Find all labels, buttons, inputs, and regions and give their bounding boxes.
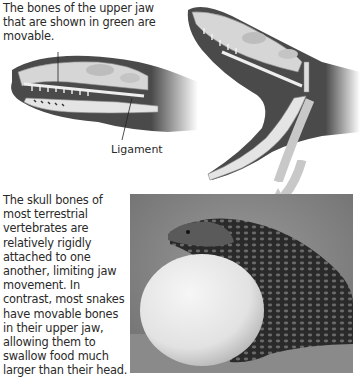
top-caption: The bones of the upper jaw that are show… (3, 1, 173, 44)
closed-jaw-skull-illustration (8, 52, 198, 142)
snake-swallowing-egg-photo (130, 194, 353, 373)
open-jaw-skull-illustration (182, 2, 360, 182)
body-caption: The skull bones of most terrestrial vert… (3, 193, 131, 378)
ligament-label: Ligament (111, 143, 163, 156)
